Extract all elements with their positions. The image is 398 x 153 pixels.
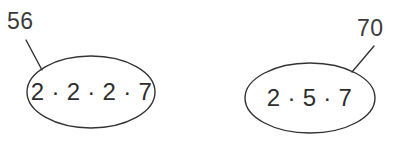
number-label-70: 70 <box>357 17 384 40</box>
factor-expression-70: 2 · 5 · 7 <box>244 86 375 110</box>
leader-line-56 <box>26 40 42 70</box>
leader-line-70 <box>352 46 374 72</box>
number-label-56: 56 <box>7 10 34 33</box>
prime-factorization-diagram <box>0 0 398 153</box>
factor-expression-56: 2 · 2 · 2 · 7 <box>27 80 156 104</box>
